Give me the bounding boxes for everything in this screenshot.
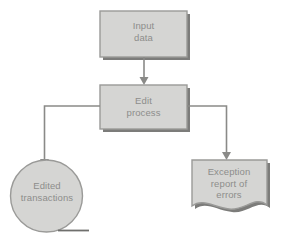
connector-edit-to-exception-report [187, 106, 231, 160]
arrowhead-down-icon [222, 152, 231, 160]
arrowhead-down-icon [140, 77, 149, 85]
node-edited-transactions[interactable] [11, 160, 90, 232]
flowchart-canvas: Input data Edit process Edited transacti… [0, 0, 284, 235]
flowchart-graphics [0, 0, 284, 235]
tape-circle [11, 160, 83, 232]
node-input-data[interactable] [100, 11, 187, 57]
node-exception-report[interactable] [192, 160, 270, 212]
node-edit-process[interactable] [100, 85, 187, 129]
connector-input-to-edit [140, 57, 149, 85]
connector-edit-to-edited-transactions [40, 106, 100, 167]
document-shape [192, 160, 267, 209]
